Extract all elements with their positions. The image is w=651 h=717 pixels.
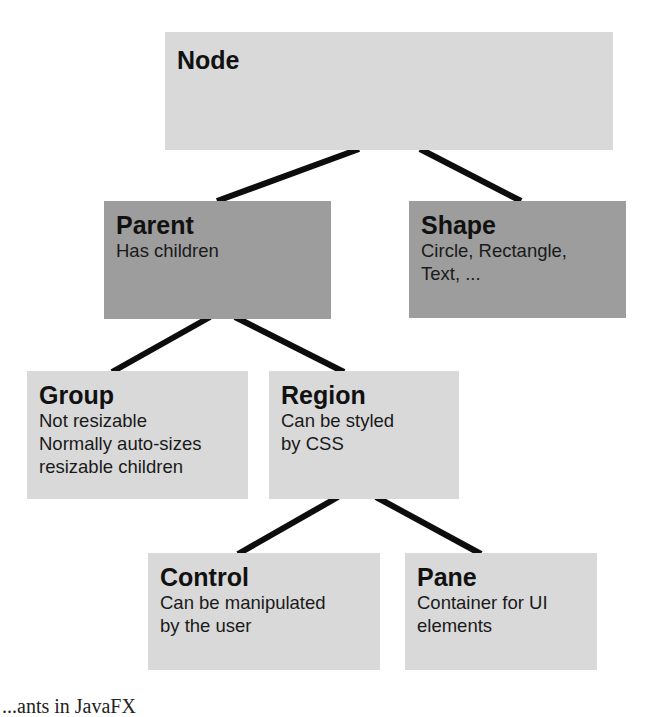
- region-box: Region Can be styled by CSS: [269, 371, 459, 499]
- edge-region-control: [238, 497, 338, 554]
- region-title: Region: [281, 381, 447, 409]
- shape-box: Shape Circle, Rectangle, Text, ...: [409, 201, 626, 318]
- control-description: Can be manipulated by the user: [160, 591, 368, 637]
- figure-caption: ...ants in JavaFX: [2, 696, 136, 716]
- parent-title: Parent: [116, 211, 319, 239]
- edge-region-pane: [376, 497, 481, 554]
- pane-description: Container for UI elements: [417, 591, 585, 637]
- shape-title: Shape: [421, 211, 614, 239]
- node-title: Node: [177, 46, 601, 74]
- node-box: Node: [165, 32, 613, 150]
- group-box: Group Not resizable Normally auto-sizes …: [27, 371, 248, 499]
- pane-box: Pane Container for UI elements: [405, 553, 597, 670]
- edge-parent-group: [112, 317, 210, 372]
- shape-description: Circle, Rectangle, Text, ...: [421, 239, 614, 285]
- parent-description: Has children: [116, 239, 319, 262]
- group-description: Not resizable Normally auto-sizes resiza…: [39, 409, 236, 478]
- group-title: Group: [39, 381, 236, 409]
- region-description: Can be styled by CSS: [281, 409, 447, 455]
- edge-parent-region: [235, 317, 344, 372]
- pane-title: Pane: [417, 563, 585, 591]
- parent-box: Parent Has children: [104, 201, 331, 319]
- control-box: Control Can be manipulated by the user: [148, 553, 380, 670]
- edge-node-shape: [420, 149, 521, 201]
- edge-node-parent: [217, 149, 359, 201]
- control-title: Control: [160, 563, 368, 591]
